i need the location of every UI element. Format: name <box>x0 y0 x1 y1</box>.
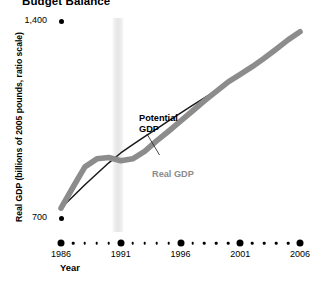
x-axis-tick-label: 1996 <box>170 249 190 259</box>
chart-container: Budget Balance Real GDP (billions of 200… <box>0 0 315 287</box>
x-axis-tick-dot-minor <box>131 242 134 245</box>
x-axis-tick-label: 1986 <box>51 249 71 259</box>
x-axis-tick-dot-minor <box>287 242 290 245</box>
x-axis-tick-dot-minor <box>191 242 194 245</box>
x-axis-tick-dot-major <box>58 240 65 247</box>
x-axis-tick-dot-minor <box>167 242 170 245</box>
x-axis-title: Year <box>60 262 80 273</box>
x-axis: 19861991199620012006 <box>0 0 315 287</box>
x-axis-tick-dot-minor <box>263 242 266 245</box>
x-axis-tick-dot-minor <box>143 242 146 245</box>
x-axis-tick-dot-minor <box>251 242 254 245</box>
x-axis-tick-dot-major <box>177 240 184 247</box>
x-axis-tick-dot-major <box>117 240 124 247</box>
x-axis-tick-label: 2006 <box>290 249 310 259</box>
x-axis-tick-dot-minor <box>84 242 87 245</box>
x-axis-tick-dot-minor <box>227 242 230 245</box>
x-axis-tick-dot-minor <box>96 242 99 245</box>
x-axis-tick-dot-major <box>297 240 304 247</box>
x-axis-tick-dot-minor <box>155 242 158 245</box>
x-axis-tick-dot-minor <box>108 242 111 245</box>
x-axis-tick-dot-major <box>237 240 244 247</box>
x-axis-tick-dot-minor <box>275 242 278 245</box>
x-axis-tick-dot-minor <box>203 242 206 245</box>
x-axis-tick-label: 2001 <box>230 249 250 259</box>
x-axis-tick-label: 1991 <box>111 249 131 259</box>
x-axis-tick-dot-minor <box>215 242 218 245</box>
x-axis-tick-dot-minor <box>72 242 75 245</box>
